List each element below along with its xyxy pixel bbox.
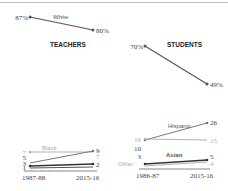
teachers-white-series: White 87% 80% [15,14,109,35]
students-right-num-1: 15 [210,137,218,145]
students-white-start: 70% [130,43,143,51]
students-title: STUDENTS [167,41,203,48]
students-right-num-0: 26 [210,119,218,127]
teachers-right-num-1: 7 [96,153,100,161]
students-hispanic-label: Hispanic [168,123,191,129]
teachers-left-num-3: 1 [23,164,27,172]
teachers-white-label: White [53,14,69,20]
teachers-x-end: 2015-16 [76,174,100,182]
students-asian-label: Asian [166,152,183,158]
students-white-end: 49% [210,81,223,89]
students-white-series: 70% 49% [130,43,223,89]
students-left-num-2: 3 [138,153,142,161]
students-lower-chart: Hispanic Asian 16 10 3 Other 26 15 5 4 1… [118,119,218,180]
students-right-num-3: 4 [210,160,214,168]
teachers-white-start: 87% [15,14,28,22]
students-left-num-0: 16 [134,136,142,144]
teachers-x-start: 1987-88 [22,174,46,182]
teachers-title: TEACHERS [50,41,86,48]
students-left-num-1: 10 [134,145,142,153]
teachers-lower-chart: Black 7 5 3 1 9 7 2 1987-88 2015-16 [22,145,100,182]
students-other-label: Other [118,161,133,167]
teachers-right-num-2: 2 [96,161,100,169]
students-x-end: 2015-16 [190,172,214,180]
chart-canvas: White 87% 80% TEACHERS 70% 49% STUDENTS … [0,0,228,191]
teachers-black-label: Black [42,145,58,151]
teachers-white-end: 80% [96,27,109,35]
students-x-start: 1986-87 [136,172,160,180]
